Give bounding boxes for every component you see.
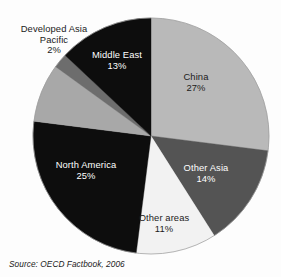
pie-slice-china bbox=[151, 18, 269, 151]
chart-page: Developed Asia Pacific 2% Middle East 13… bbox=[0, 0, 281, 277]
source-note: Source: OECD Factbook, 2006 bbox=[9, 259, 125, 269]
pie-chart-svg bbox=[0, 0, 281, 258]
pie-slice-group bbox=[33, 18, 269, 254]
pie-chart: Developed Asia Pacific 2% Middle East 13… bbox=[0, 0, 281, 258]
pie-slice-north-america bbox=[33, 121, 151, 253]
